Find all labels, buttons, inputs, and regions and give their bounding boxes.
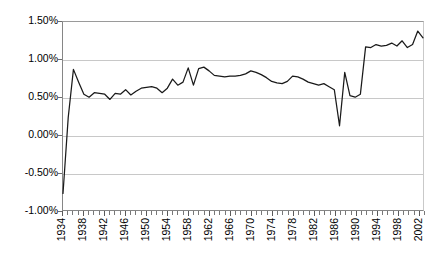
x-tick-label: 1934 bbox=[56, 218, 67, 241]
x-tick-mark-major bbox=[83, 211, 84, 216]
x-tick-label: 1962 bbox=[203, 218, 214, 241]
x-tick-mark-major bbox=[146, 211, 147, 216]
x-tick-mark-minor bbox=[162, 211, 163, 215]
x-tick-mark-minor bbox=[351, 211, 352, 215]
x-tick-mark-minor bbox=[156, 211, 157, 215]
x-tick-label: 1974 bbox=[266, 218, 277, 241]
y-tick-mark bbox=[58, 211, 62, 212]
plot-area bbox=[62, 21, 424, 211]
x-tick-mark-major bbox=[230, 211, 231, 216]
x-tick-mark-minor bbox=[204, 211, 205, 215]
x-tick-mark-major bbox=[335, 211, 336, 216]
x-tick-mark-minor bbox=[114, 211, 115, 215]
y-tick-mark bbox=[58, 97, 62, 98]
x-tick-mark-minor bbox=[319, 211, 320, 215]
y-tick-label: 1.00% bbox=[2, 53, 58, 63]
x-tick-mark-minor bbox=[393, 211, 394, 215]
x-tick-mark-minor bbox=[330, 211, 331, 215]
x-tick-mark-minor bbox=[141, 211, 142, 215]
y-tick-mark bbox=[58, 21, 62, 22]
y-tick-label: 0.50% bbox=[2, 91, 58, 101]
x-tick-mark-minor bbox=[246, 211, 247, 215]
x-tick-mark-minor bbox=[214, 211, 215, 215]
x-tick-mark-minor bbox=[345, 211, 346, 215]
x-tick-mark-minor bbox=[135, 211, 136, 215]
y-tick-mark bbox=[58, 173, 62, 174]
x-tick-mark-minor bbox=[408, 211, 409, 215]
x-tick-mark-major bbox=[188, 211, 189, 216]
x-tick-label: 1986 bbox=[329, 218, 340, 241]
y-tick-label: -1.00% bbox=[2, 205, 58, 215]
x-tick-mark-minor bbox=[298, 211, 299, 215]
x-tick-mark-major bbox=[125, 211, 126, 216]
y-tick-label: 0.00% bbox=[2, 129, 58, 139]
x-tick-label: 1966 bbox=[224, 218, 235, 241]
y-tick-mark bbox=[58, 59, 62, 60]
x-tick-mark-minor bbox=[372, 211, 373, 215]
x-tick-label: 1938 bbox=[77, 218, 88, 241]
x-tick-mark-minor bbox=[240, 211, 241, 215]
x-tick-mark-minor bbox=[361, 211, 362, 215]
x-tick-label: 1998 bbox=[392, 218, 403, 241]
x-tick-label: 1942 bbox=[98, 218, 109, 241]
x-tick-mark-major bbox=[398, 211, 399, 216]
x-tick-mark-minor bbox=[198, 211, 199, 215]
x-tick-mark-major bbox=[209, 211, 210, 216]
y-tick-mark bbox=[58, 135, 62, 136]
x-tick-label: 1982 bbox=[308, 218, 319, 241]
x-tick-mark-minor bbox=[256, 211, 257, 215]
x-tick-mark-minor bbox=[235, 211, 236, 215]
y-tick-label: -0.50% bbox=[2, 167, 58, 177]
x-tick-mark-minor bbox=[424, 211, 425, 215]
x-tick-mark-minor bbox=[99, 211, 100, 215]
x-tick-mark-minor bbox=[67, 211, 68, 215]
x-tick-mark-major bbox=[314, 211, 315, 216]
x-tick-mark-minor bbox=[288, 211, 289, 215]
x-tick-mark-minor bbox=[219, 211, 220, 215]
x-tick-mark-major bbox=[62, 211, 63, 216]
x-tick-mark-minor bbox=[130, 211, 131, 215]
x-tick-mark-minor bbox=[303, 211, 304, 215]
x-tick-mark-minor bbox=[309, 211, 310, 215]
x-tick-mark-minor bbox=[414, 211, 415, 215]
x-tick-label: 1978 bbox=[287, 218, 298, 241]
x-tick-mark-minor bbox=[225, 211, 226, 215]
x-tick-mark-minor bbox=[120, 211, 121, 215]
y-tick-label: 1.50% bbox=[2, 15, 58, 25]
x-tick-mark-minor bbox=[177, 211, 178, 215]
x-tick-label: 1946 bbox=[119, 218, 130, 241]
x-tick-mark-minor bbox=[324, 211, 325, 215]
x-tick-mark-minor bbox=[277, 211, 278, 215]
x-tick-mark-minor bbox=[193, 211, 194, 215]
x-tick-mark-minor bbox=[387, 211, 388, 215]
x-tick-mark-minor bbox=[183, 211, 184, 215]
x-tick-mark-major bbox=[272, 211, 273, 216]
y-axis: 1.50%1.00%0.50%0.00%-0.50%-1.00% bbox=[0, 21, 58, 211]
x-tick-label: 1954 bbox=[161, 218, 172, 241]
x-tick-mark-major bbox=[104, 211, 105, 216]
line-chart: 1.50%1.00%0.50%0.00%-0.50%-1.00% 1934193… bbox=[0, 0, 441, 279]
x-tick-label: 1990 bbox=[350, 218, 361, 241]
x-tick-mark-minor bbox=[172, 211, 173, 215]
x-axis: 1934193819421946195019541958196219661970… bbox=[62, 218, 424, 276]
x-tick-mark-minor bbox=[72, 211, 73, 215]
x-tick-mark-minor bbox=[109, 211, 110, 215]
series-line bbox=[63, 22, 423, 210]
x-tick-mark-minor bbox=[340, 211, 341, 215]
x-tick-mark-minor bbox=[88, 211, 89, 215]
x-tick-mark-minor bbox=[93, 211, 94, 215]
x-tick-mark-major bbox=[251, 211, 252, 216]
x-tick-mark-minor bbox=[282, 211, 283, 215]
x-tick-label: 1970 bbox=[245, 218, 256, 241]
x-tick-mark-minor bbox=[151, 211, 152, 215]
x-tick-label: 1994 bbox=[371, 218, 382, 241]
x-tick-label: 1958 bbox=[182, 218, 193, 241]
x-tick-mark-minor bbox=[366, 211, 367, 215]
x-tick-label: 2002 bbox=[413, 218, 424, 241]
x-tick-label: 1950 bbox=[140, 218, 151, 241]
x-tick-mark-minor bbox=[78, 211, 79, 215]
x-axis-ticks bbox=[62, 211, 424, 216]
x-tick-mark-minor bbox=[403, 211, 404, 215]
x-tick-mark-major bbox=[293, 211, 294, 216]
x-tick-mark-major bbox=[419, 211, 420, 216]
